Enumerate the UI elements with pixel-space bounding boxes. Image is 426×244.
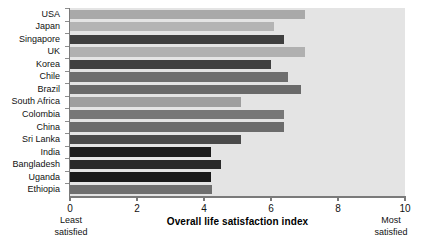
bar[interactable] [70,47,305,56]
y-axis-label: South Africa [0,96,64,109]
bar[interactable] [70,160,221,169]
least-satisfied-note: Least satisfied [28,214,114,238]
x-axis-tick [270,196,272,201]
x-axis-tick-marks [70,196,405,201]
bar[interactable] [70,85,301,94]
bar[interactable] [70,135,241,144]
bar[interactable] [70,97,241,106]
bar-row[interactable] [70,171,405,184]
y-axis-label: Sri Lanka [0,133,64,146]
least-satisfied-line1: Least [28,214,114,226]
bar[interactable] [70,147,211,156]
bar[interactable] [70,122,284,131]
y-axis-label: Singapore [0,33,64,46]
bar-row[interactable] [70,8,405,21]
x-axis-tick [69,196,71,201]
bar[interactable] [70,10,305,19]
y-axis-label: Chile [0,71,64,84]
y-axis-label: Uganda [0,171,64,184]
x-axis-tick-label: 4 [201,202,207,215]
bar-row[interactable] [70,183,405,196]
life-satisfaction-bar-chart: USAJapanSingaporeUKKoreaChileBrazilSouth… [0,0,426,244]
bar-row[interactable] [70,121,405,134]
bar[interactable] [70,110,284,119]
y-axis-label: USA [0,8,64,21]
bar[interactable] [70,35,284,44]
y-axis-label: Brazil [0,83,64,96]
bar-row[interactable] [70,133,405,146]
y-axis-label: India [0,146,64,159]
bar[interactable] [70,185,212,194]
y-axis-label: Japan [0,21,64,34]
bar-row[interactable] [70,83,405,96]
most-satisfied-line2: satisfied [348,226,426,238]
y-axis-label: Korea [0,58,64,71]
most-satisfied-note: Most satisfied [348,214,426,238]
bar-row[interactable] [70,71,405,84]
y-axis-label: Bangladesh [0,158,64,171]
bar-row[interactable] [70,158,405,171]
y-axis-label: UK [0,46,64,59]
x-axis-tick-label: 2 [134,202,140,215]
bar-row[interactable] [70,33,405,46]
x-axis-tick [136,196,138,201]
y-axis-label: Colombia [0,108,64,121]
y-axis-label: Ethiopia [0,183,64,196]
bar-row[interactable] [70,96,405,109]
x-axis-tick-label: 6 [268,202,274,215]
bar-row[interactable] [70,46,405,59]
y-axis-label: China [0,121,64,134]
bar[interactable] [70,172,211,181]
bar-row[interactable] [70,58,405,71]
bar-row[interactable] [70,146,405,159]
x-axis-tick [404,196,406,201]
bar-row[interactable] [70,108,405,121]
bar[interactable] [70,72,288,81]
x-axis-tick [337,196,339,201]
bar-row[interactable] [70,21,405,34]
x-axis-tick [203,196,205,201]
bar[interactable] [70,60,271,69]
least-satisfied-line2: satisfied [28,226,114,238]
y-axis-category-labels: USAJapanSingaporeUKKoreaChileBrazilSouth… [0,8,64,196]
most-satisfied-line1: Most [348,214,426,226]
plot-area [70,8,405,196]
x-axis-tick-label: 8 [335,202,341,215]
bar[interactable] [70,22,274,31]
